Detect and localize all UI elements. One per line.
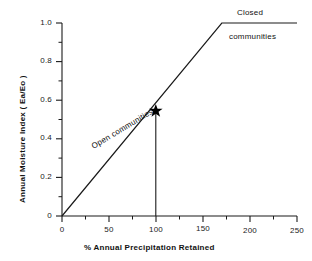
y-tick-label-0.2: 0.2 (26, 172, 52, 181)
y-tick-label-0.4: 0.4 (26, 133, 52, 142)
y-tick-label-0: 0 (26, 211, 52, 220)
x-tick-label-50: 50 (97, 225, 121, 234)
x-axis-title: % Annual Precipitation Retained (84, 243, 215, 252)
annotation-communities: communities (229, 32, 276, 41)
x-tick-label-100: 100 (144, 225, 168, 234)
x-tick-label-0: 0 (50, 225, 74, 234)
chart-figure: 1.0 0.8 0.6 0.4 0.2 0 0 50 100 150 200 2… (0, 0, 312, 261)
x-tick-label-150: 150 (191, 224, 215, 233)
y-tick-label-1.0: 1.0 (26, 18, 52, 27)
data-line-series (62, 23, 297, 216)
annotation-closed: Closed (237, 8, 263, 17)
x-tick-label-250: 250 (285, 226, 309, 235)
y-tick-label-0.6: 0.6 (26, 95, 52, 104)
x-tick-label-200: 200 (238, 226, 262, 235)
y-axis-title: Annual Moisture Index ( Ea/Eo ) (18, 75, 27, 203)
y-tick-label-0.8: 0.8 (26, 56, 52, 65)
